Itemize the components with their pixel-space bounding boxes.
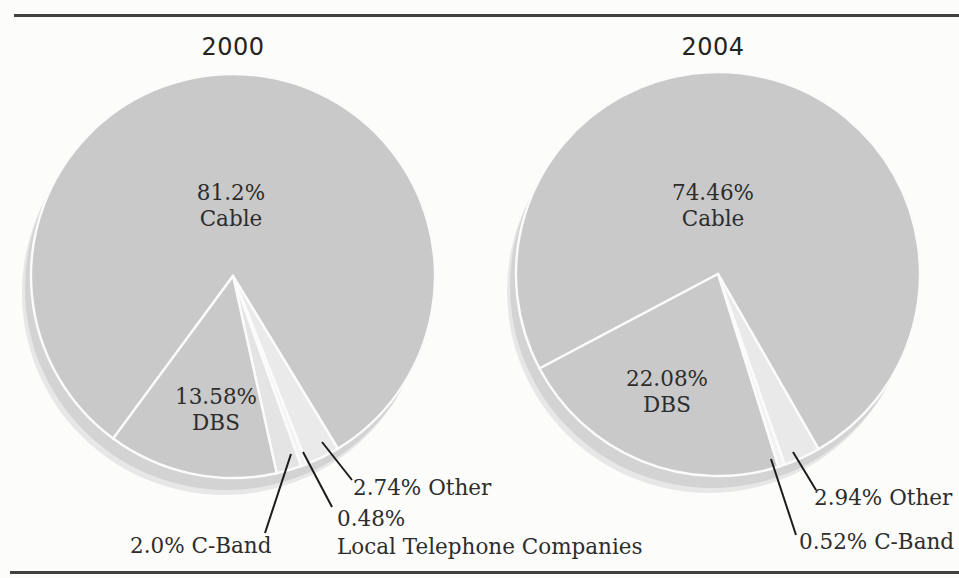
pie-2004-cable-name: Cable <box>672 206 754 232</box>
pie-2000-cable-pct: 81.2% <box>197 180 265 206</box>
pie-2004-cable-pct: 74.46% <box>672 180 754 206</box>
pie-2004-dbs-label: 22.08% DBS <box>626 366 708 418</box>
pie-2004-other-label: 2.94% Other <box>814 485 952 511</box>
pie-2000-local-telephone-label: 0.48% Local Telephone Companies <box>337 505 643 561</box>
pie-2004-dbs-pct: 22.08% <box>626 366 708 392</box>
pie-2004-other-name: Other <box>889 485 952 510</box>
pie-2000-dbs-pct: 13.58% <box>175 384 257 410</box>
pie-2004-cband-pct: 0.52% <box>799 529 867 554</box>
pie-2000-local-telephone-pct: 0.48% <box>337 505 643 533</box>
pie-2000-cable-name: Cable <box>197 206 265 232</box>
pie-2004-cband-name: C-Band <box>874 529 954 554</box>
pie-2000-title: 2000 <box>201 33 264 61</box>
pie-2000-cable-label: 81.2% Cable <box>197 180 265 232</box>
pie-2000-other-name: Other <box>428 475 491 500</box>
pie-2000 <box>22 74 435 533</box>
pie-2004-dbs-name: DBS <box>626 392 708 418</box>
pie-2000-other-label: 2.74% Other <box>353 475 491 501</box>
pie-2004-cable-label: 74.46% Cable <box>672 180 754 232</box>
pie-2000-dbs-label: 13.58% DBS <box>175 384 257 436</box>
pie-2004-other-pct: 2.94% <box>814 485 882 510</box>
figure-pay-tv-market-share: 2000 2004 81.2% Cable 13.58% DBS 2.74% O… <box>0 0 959 578</box>
pie-2000-cband-label: 2.0% C-Band <box>130 533 271 559</box>
pie-2000-local-telephone-name: Local Telephone Companies <box>337 533 643 561</box>
pie-2004 <box>507 72 920 535</box>
pie-2004-title: 2004 <box>681 33 744 61</box>
pie-2000-other-pct: 2.74% <box>353 475 421 500</box>
pie-2004-cband-label: 0.52% C-Band <box>799 529 954 555</box>
pie-2000-dbs-name: DBS <box>175 410 257 436</box>
pie-2000-cband-pct: 2.0% <box>130 533 185 558</box>
pie-2000-cband-name: C-Band <box>191 533 271 558</box>
